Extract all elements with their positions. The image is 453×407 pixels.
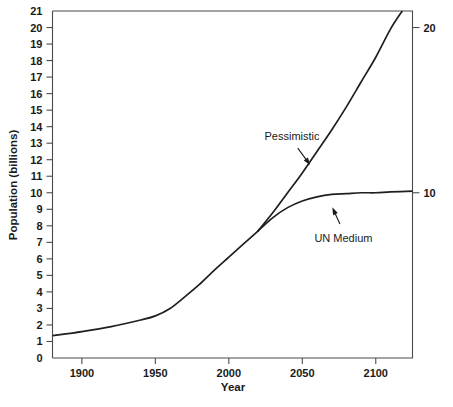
y-tick-label: 19	[30, 38, 42, 50]
x-tick-label: 1950	[143, 367, 167, 379]
y-tick-label: 21	[30, 5, 42, 17]
annotation-label-un-medium: UN Medium	[314, 232, 372, 244]
y-tick-label: 14	[30, 121, 43, 133]
x-tick-label: 2100	[364, 367, 388, 379]
y-tick-label: 15	[30, 104, 42, 116]
y-tick-label: 16	[30, 88, 42, 100]
y-tick-label: 17	[30, 71, 42, 83]
y-tick-label: 8	[36, 220, 42, 232]
x-tick-label: 1900	[70, 367, 94, 379]
y-right-tick-label: 10	[424, 187, 436, 199]
y-tick-label: 12	[30, 154, 42, 166]
y-tick-label: 1	[36, 335, 42, 347]
y-tick-label: 11	[31, 170, 43, 182]
y-tick-label: 10	[30, 187, 42, 199]
y-tick-label: 13	[30, 137, 42, 149]
y-tick-label: 6	[36, 253, 42, 265]
y-axis-title: Population (billions)	[7, 130, 19, 241]
y-tick-label: 9	[36, 203, 42, 215]
annotation-label-pessimistic: Pessimistic	[265, 130, 321, 142]
y-tick-label: 3	[36, 302, 42, 314]
y-tick-label: 4	[36, 286, 43, 298]
y-tick-label: 5	[36, 269, 42, 281]
y-tick-label: 7	[36, 236, 42, 248]
y-right-tick-label: 20	[424, 22, 436, 34]
chart-background	[0, 0, 453, 407]
x-axis-title: Year	[221, 381, 246, 393]
population-projection-chart: 0123456789101112131415161718192021 1020 …	[0, 0, 453, 407]
y-tick-label: 2	[36, 319, 42, 331]
x-tick-label: 2000	[217, 367, 241, 379]
y-tick-label: 18	[30, 55, 42, 67]
x-tick-label: 2050	[290, 367, 314, 379]
chart-canvas: 0123456789101112131415161718192021 1020 …	[0, 0, 453, 407]
y-tick-label: 20	[30, 22, 42, 34]
y-tick-label: 0	[36, 352, 42, 364]
